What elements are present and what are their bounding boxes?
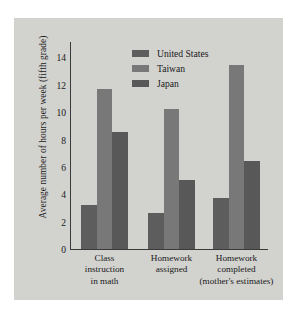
x-tick-label-line: Homework bbox=[182, 253, 292, 264]
y-tick-label-5: 10 bbox=[56, 107, 66, 118]
x-axis-line bbox=[70, 249, 268, 250]
legend-label: Taiwan bbox=[157, 63, 185, 74]
y-axis-line bbox=[70, 42, 71, 250]
legend-item-united-states[interactable]: United States bbox=[132, 46, 208, 61]
bar-united-states-2[interactable] bbox=[213, 198, 229, 249]
y-axis-title: Average number of hours per week (fifth … bbox=[38, 22, 48, 232]
bar-taiwan-0[interactable] bbox=[97, 89, 113, 248]
x-tick-label-line: (mother's estimates) bbox=[182, 276, 292, 287]
legend-swatch-icon bbox=[132, 50, 149, 58]
bar-japan-2[interactable] bbox=[244, 161, 260, 249]
bar-united-states-1[interactable] bbox=[148, 213, 164, 249]
y-tick-label-6: 12 bbox=[56, 79, 66, 90]
y-tick-label-4: 8 bbox=[61, 134, 66, 145]
bar-japan-1[interactable] bbox=[179, 180, 195, 249]
x-tick-label-line: completed bbox=[182, 264, 292, 275]
chart-figure: Average number of hours per week (fifth … bbox=[14, 18, 283, 300]
y-tick-label-3: 6 bbox=[61, 162, 66, 173]
bar-group-0 bbox=[81, 43, 128, 249]
legend-item-japan[interactable]: Japan bbox=[132, 76, 208, 91]
legend-label: Japan bbox=[157, 78, 179, 89]
bar-united-states-0[interactable] bbox=[81, 205, 97, 249]
y-tick-label-1: 2 bbox=[61, 216, 66, 227]
legend-swatch-icon bbox=[132, 80, 149, 88]
x-tick-label-2: Homeworkcompleted(mother's estimates) bbox=[182, 253, 292, 287]
x-tick-label-line: in math bbox=[66, 276, 144, 287]
bar-japan-0[interactable] bbox=[112, 132, 128, 249]
bar-group-2 bbox=[213, 43, 260, 249]
chart-legend: United StatesTaiwanJapan bbox=[132, 46, 208, 91]
bar-taiwan-1[interactable] bbox=[164, 109, 180, 249]
legend-swatch-icon bbox=[132, 65, 149, 73]
legend-item-taiwan[interactable]: Taiwan bbox=[132, 61, 208, 76]
legend-label: United States bbox=[157, 48, 208, 59]
y-tick-label-7: 14 bbox=[56, 52, 66, 63]
y-tick-label-2: 4 bbox=[61, 189, 66, 200]
bar-taiwan-2[interactable] bbox=[229, 65, 245, 249]
